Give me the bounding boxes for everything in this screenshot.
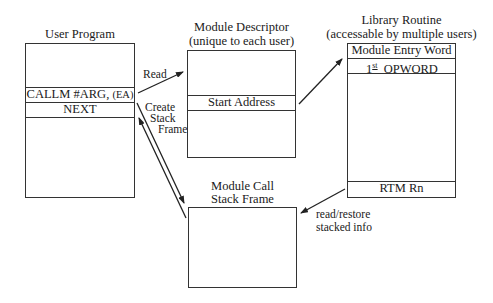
start-address-arrow [299,59,342,104]
arrows-layer [0,0,493,303]
return-to-next-arrow [139,118,186,218]
create-stack-frame-arrow [137,103,184,203]
read-arrow [138,72,183,93]
rtm-restore-arrow [301,189,345,213]
